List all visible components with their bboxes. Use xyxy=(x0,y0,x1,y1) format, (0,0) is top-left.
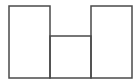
diagram-canvas xyxy=(0,0,140,84)
left-box xyxy=(9,6,50,78)
right-box xyxy=(91,6,132,78)
diagram-svg xyxy=(0,0,140,84)
middle-box xyxy=(50,36,91,78)
